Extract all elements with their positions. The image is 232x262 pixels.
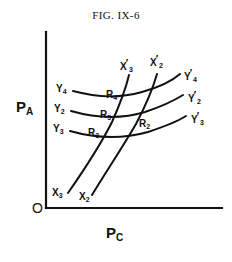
- prime-mark-y4: ′: [190, 68, 192, 79]
- point-label-r3-sub: 3: [95, 132, 99, 139]
- point-label-r2-sub: 2: [146, 123, 150, 130]
- curve-label-y3-base: Y: [53, 123, 60, 134]
- curve-label-x2-prime-sub: 2: [159, 62, 163, 69]
- x-axis-label-main: P: [106, 224, 116, 241]
- figure-ix-6: FIG. IX-6 PA PC O Y4 Y2 Y3 Y′4 Y′2 Y′3: [0, 0, 232, 262]
- curve-label-y4-prime-sub: 4: [193, 76, 197, 83]
- y-axis-label: PA: [16, 98, 33, 115]
- curve-y2: [71, 95, 183, 117]
- origin-label: O: [32, 200, 43, 216]
- curve-label-y2: Y2: [54, 104, 65, 114]
- curve-label-y3-sub: 3: [60, 128, 64, 135]
- prime-mark-y2: ′: [194, 90, 196, 101]
- origin-label-text: O: [32, 200, 43, 216]
- curve-label-y3: Y3: [53, 124, 64, 134]
- y-axis-label-main: P: [16, 98, 26, 115]
- point-label-r4: R4: [106, 90, 117, 100]
- curve-label-x3: X3: [52, 188, 63, 198]
- point-label-r3: R3: [88, 128, 99, 138]
- curve-label-y4: Y4: [56, 84, 67, 94]
- curve-label-x2-sub: 2: [86, 196, 90, 203]
- curve-label-y2-prime-sub: 2: [197, 98, 201, 105]
- curve-label-y4-prime: Y′4: [184, 72, 197, 82]
- x-axis-label: PC: [106, 224, 123, 241]
- x-axis-label-sub: C: [116, 232, 123, 243]
- curve-label-x3-base: X: [52, 187, 59, 198]
- point-label-r2: R2: [139, 119, 150, 129]
- curve-label-x2-base: X: [79, 191, 86, 202]
- curve-label-y2-sub: 2: [61, 108, 65, 115]
- curve-label-y4-base: Y: [56, 83, 63, 94]
- curve-label-x3-prime-sub: 3: [129, 66, 133, 73]
- prime-mark-x2: ′: [156, 54, 158, 65]
- curve-label-x3-sub: 3: [59, 192, 63, 199]
- curve-label-y2-prime: Y′2: [188, 94, 201, 104]
- prime-mark-x3: ′: [126, 58, 128, 69]
- point-label-r4-sub: 4: [113, 94, 117, 101]
- point-label-r5: R5: [100, 110, 111, 120]
- curve-label-x2: X2: [79, 192, 90, 202]
- figure-canvas: [0, 0, 232, 262]
- y-axis-label-sub: A: [26, 106, 33, 117]
- curve-label-y3-prime-sub: 3: [200, 119, 204, 126]
- curve-label-y2-base: Y: [54, 103, 61, 114]
- curve-label-y4-sub: 4: [63, 88, 67, 95]
- curve-label-x2-prime: X′2: [150, 58, 163, 68]
- curve-label-x3-prime: X′3: [120, 62, 133, 72]
- prime-mark-y3: ′: [197, 111, 199, 122]
- point-label-r5-sub: 5: [107, 114, 111, 121]
- curve-label-y3-prime: Y′3: [191, 115, 204, 125]
